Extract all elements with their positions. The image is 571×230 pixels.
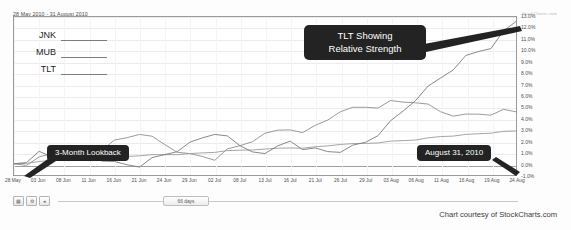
y-axis-tick: 11.0%: [521, 36, 535, 42]
legend-swatch-mub: [61, 57, 107, 58]
x-axis-tick: 02 Jul: [208, 178, 221, 183]
y-axis-tick: 10.0%: [521, 47, 535, 53]
range-slider-handle[interactable]: 66 days: [163, 196, 209, 206]
x-axis-tick: 28 May: [5, 178, 21, 183]
x-axis-tick: 03 Aug: [383, 178, 398, 183]
zoom-out-icon[interactable]: ◂: [39, 196, 50, 206]
x-axis-tick: 16 Jun: [106, 178, 121, 183]
x-axis-tick: 29 Jun: [182, 178, 197, 183]
stockcharts-chart-panel: 28 May 2010 - 31 August 2010 StockCharts…: [0, 0, 571, 230]
x-axis-tick: 16 Jul: [284, 178, 297, 183]
grid-icon[interactable]: ▦: [13, 196, 24, 206]
y-axis-tick: 1.0%: [521, 150, 533, 156]
x-axis-tick: 06 Aug: [409, 178, 424, 183]
x-axis-tick: 13 Jul: [258, 178, 271, 183]
settings-icon[interactable]: ⚙: [26, 196, 37, 206]
legend-swatch-tlt: [61, 74, 107, 75]
x-axis-tick: 24 Aug: [509, 178, 524, 183]
x-axis-tick: 21 Jul: [309, 178, 322, 183]
x-axis: 28 May03 Jun08 Jun11 Jun16 Jun21 Jun24 J…: [13, 178, 517, 190]
y-axis-tick: 5.0%: [521, 104, 533, 110]
legend-label-tlt: TLT: [18, 65, 61, 74]
x-axis-tick: 26 Jul: [334, 178, 347, 183]
y-axis-tick: 8.0%: [521, 70, 533, 76]
legend: JNK MUB TLT: [18, 27, 107, 78]
y-axis-tick: 2.0%: [521, 139, 533, 145]
legend-item-jnk: JNK: [18, 27, 107, 44]
x-axis-tick: 16 Aug: [459, 178, 474, 183]
y-axis-tick: 7.0%: [521, 82, 533, 88]
x-axis-tick: 21 Jun: [132, 178, 147, 183]
y-axis-tick: 4.0%: [521, 116, 533, 122]
x-axis-tick: 11 Jun: [81, 178, 95, 183]
x-axis-tick: 11 Aug: [434, 178, 449, 183]
x-axis-tick: 24 Jun: [157, 178, 172, 183]
x-axis-tick: 19 Aug: [484, 178, 499, 183]
legend-item-tlt: TLT: [18, 61, 107, 78]
callout-end-date: August 31, 2010: [417, 145, 491, 161]
chart-credit: Chart courtesy of StockCharts.com: [439, 210, 557, 219]
x-axis-tick: 29 Jul: [359, 178, 372, 183]
y-axis-tick: 0.0%: [521, 162, 533, 168]
x-axis-tick: 08 Jul: [233, 178, 246, 183]
x-axis-tick: 03 Jun: [31, 178, 46, 183]
x-axis-tick: 08 Jun: [56, 178, 71, 183]
y-axis-tick: 3.0%: [521, 127, 533, 133]
legend-label-jnk: JNK: [18, 31, 61, 40]
y-axis-tick: 13.0%: [521, 13, 535, 19]
legend-label-mub: MUB: [18, 48, 61, 57]
range-slider-track[interactable]: [58, 201, 518, 202]
y-axis-tick: 9.0%: [521, 59, 533, 65]
legend-item-mub: MUB: [18, 44, 107, 61]
callout-tlt-strength: TLT Showing Relative Strength: [304, 25, 426, 60]
callout-lookback: 3-Month Lookback: [47, 145, 129, 161]
y-axis-tick: 6.0%: [521, 93, 533, 99]
y-axis: 13.0%12.0%11.0%10.0%9.0%8.0%7.0%6.0%5.0%…: [519, 16, 569, 176]
y-axis-tick: 12.0%: [521, 24, 535, 30]
legend-swatch-jnk: [61, 40, 107, 41]
chart-toolbar[interactable]: ▦ ⚙ ◂: [13, 194, 50, 207]
